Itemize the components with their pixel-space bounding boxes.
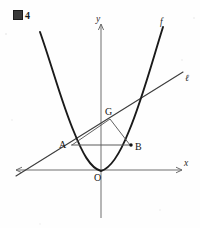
x-axis-label: x [183, 158, 189, 168]
curve-f-label: f [160, 17, 164, 27]
axes-group [16, 24, 182, 218]
segment-gb [110, 119, 130, 145]
secant-line-l [16, 72, 183, 176]
origin-label: O [94, 172, 101, 183]
point-a-label: A [59, 139, 67, 150]
figure-container: 4 A B G O x y f ℓ [0, 0, 200, 228]
line-l-label: ℓ [185, 73, 189, 83]
point-g-label: G [105, 106, 112, 117]
coordinate-plot: A B G O x y f ℓ [0, 0, 200, 228]
point-b-label: B [135, 141, 142, 152]
y-axis-label: y [95, 14, 101, 24]
segment-ga [72, 119, 110, 145]
point-b-dot [129, 143, 132, 146]
